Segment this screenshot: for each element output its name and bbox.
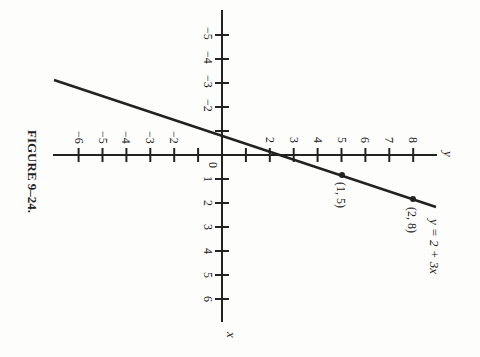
y-tick-label: 4	[311, 137, 325, 143]
x-tick-label: 4	[201, 248, 215, 254]
x-tick-label: 5	[201, 272, 215, 278]
x-tick-label: −5	[201, 27, 215, 40]
y-tick-label: −6	[72, 131, 86, 144]
y-axis-ticks: −6−5−4−3−22345678	[72, 131, 421, 162]
point-label-2-8: (2, 8)	[405, 207, 419, 233]
y-tick-label: 3	[287, 137, 301, 143]
y-tick-label: 6	[358, 137, 372, 143]
x-tick-label: −4	[201, 51, 215, 64]
y-tick-label: −3	[143, 131, 157, 144]
x-tick-label: 1	[201, 176, 215, 182]
line-y-eq-2-plus-3x	[54, 80, 436, 207]
point-label-1-5: (1, 5)	[334, 182, 348, 208]
x-axis-label: x	[224, 331, 239, 338]
y-tick-label: 5	[335, 137, 349, 143]
x-tick-label: 3	[201, 224, 215, 230]
x-tick-label: −3	[201, 75, 215, 88]
y-tick-label: 8	[406, 137, 420, 143]
origin-label: 0	[206, 162, 220, 168]
y-tick-label: −4	[119, 131, 133, 144]
y-tick-label: 2	[263, 137, 277, 143]
x-tick-label: 6	[201, 296, 215, 302]
point-2-8	[410, 196, 416, 202]
figure-9-24: −6−5−4−3−22345678 123456−5−4−3−2 0 y x (…	[0, 0, 480, 357]
figure-caption: FIGURE 9–24.	[25, 130, 40, 213]
point-1-5	[339, 172, 345, 178]
y-axis-label: y	[441, 149, 456, 157]
y-tick-label: 7	[382, 137, 396, 143]
equation-label: y = 2 + 3x	[427, 217, 442, 274]
x-tick-label: 2	[201, 200, 215, 206]
y-tick-label: −5	[96, 131, 110, 144]
x-tick-label: −2	[201, 99, 215, 112]
y-tick-label: −2	[167, 131, 181, 144]
